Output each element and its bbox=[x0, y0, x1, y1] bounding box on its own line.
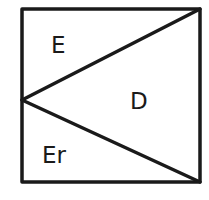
region-label-d: D bbox=[130, 90, 148, 113]
upper-diagonal-line bbox=[22, 9, 200, 100]
region-label-er: Er bbox=[42, 144, 66, 167]
square-diagram bbox=[0, 0, 209, 200]
region-label-e: E bbox=[51, 34, 66, 57]
lower-diagonal-line bbox=[22, 100, 200, 182]
